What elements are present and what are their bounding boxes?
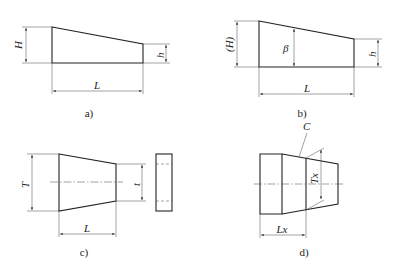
label-H-parenthesized: (H) — [223, 36, 236, 52]
label-L-c: L — [83, 222, 90, 234]
figure-d: C Tx Lx d) — [254, 120, 344, 259]
label-C: C — [303, 120, 311, 132]
caption-b: b) — [297, 107, 307, 120]
label-beta: β — [282, 42, 289, 54]
figure-c: T t L c) — [19, 154, 172, 259]
caption-d: d) — [299, 246, 309, 259]
trapezoid-plan-c — [59, 154, 116, 211]
taper-diagrams: H h L a) (H) β h L b) T — [0, 0, 396, 273]
label-T: T — [19, 181, 31, 188]
label-t: t — [130, 182, 142, 186]
figure-b: (H) β h L b) — [223, 21, 382, 120]
figure-a: H h L a) — [12, 27, 170, 120]
label-H: H — [12, 40, 24, 50]
wedge-shape-b — [259, 21, 354, 67]
leader-C — [299, 133, 307, 157]
label-Lx: Lx — [276, 223, 288, 235]
wedge-shape-a — [52, 27, 143, 63]
caption-a: a) — [85, 107, 94, 120]
label-L: L — [93, 79, 100, 91]
label-L-b: L — [303, 82, 310, 94]
label-h-b: h — [366, 51, 378, 57]
caption-c: c) — [80, 246, 89, 259]
label-Tx: Tx — [308, 173, 320, 184]
side-view-c — [156, 154, 172, 211]
label-h: h — [154, 52, 166, 58]
